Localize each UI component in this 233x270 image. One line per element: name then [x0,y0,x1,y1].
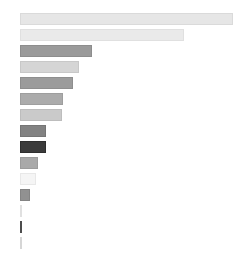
bar [20,189,30,201]
bar [20,45,92,57]
bar [20,237,22,249]
bar [20,221,22,233]
bar [20,93,63,105]
bar [20,205,22,217]
bar [20,173,36,185]
bar [20,125,46,137]
bar-chart [0,0,233,270]
bar [20,157,38,169]
bar [20,141,46,153]
plot-area [0,0,233,270]
bar [20,109,62,121]
bar [20,77,73,89]
bar [20,29,184,41]
bar [20,61,79,73]
bar [20,13,233,25]
